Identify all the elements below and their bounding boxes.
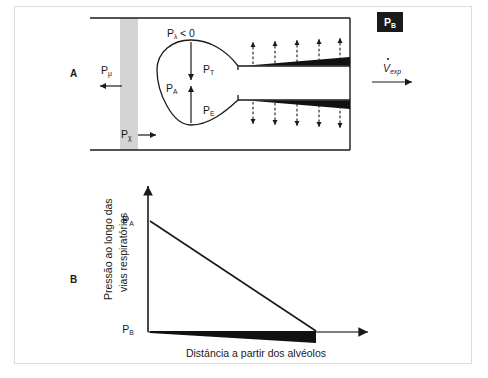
panel-a-letter: A — [70, 68, 77, 79]
label-p-lambda: Pλ< 0 — [167, 27, 195, 40]
y-tick-label-pb: PB — [122, 323, 134, 336]
compression-wedge-panel-b — [150, 331, 316, 343]
label-p-elastic: PE — [203, 104, 215, 117]
y-axis-title-line1: Pressão ao longo das — [102, 198, 114, 300]
x-axis-title: Distáncia a partir dos alvéolos — [186, 347, 326, 359]
label-expiratory-flow: Vexp — [383, 62, 401, 76]
label-p-mu: Pμ — [101, 64, 112, 78]
caption-strip — [18, 369, 470, 378]
flow-dot-overscript — [387, 58, 389, 60]
label-p-transmural: PT — [203, 63, 214, 76]
compression-wedge-upper — [248, 57, 350, 65]
y-tick-label-pa: PA — [122, 214, 134, 227]
pressure-decline-line — [150, 221, 316, 331]
panel-a: A — [70, 12, 412, 150]
respiratory-pressure-diagram: A — [0, 0, 488, 378]
alveolus-outline-upper — [191, 40, 238, 70]
figure-root: A — [0, 0, 488, 378]
panel-b: B Pressão ao longo das vias respiratória… — [70, 186, 368, 359]
compression-wedge-lower — [248, 101, 350, 109]
label-p-alveolar: PA — [166, 82, 178, 95]
panel-b-letter: B — [70, 274, 77, 285]
